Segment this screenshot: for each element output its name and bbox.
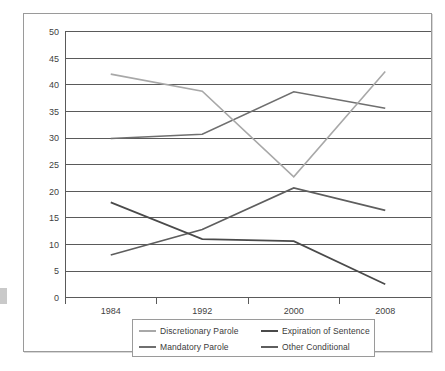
x-tick-2000: 2000 [284, 306, 304, 316]
y-tick-40: 40 [49, 80, 59, 90]
legend-label-other-conditional: Other Conditional [282, 342, 350, 352]
legend-swatch-other-conditional [261, 346, 278, 348]
legend-swatch-expiration-of-sentence [261, 330, 278, 332]
x-tick-2008: 2008 [375, 306, 395, 316]
y-tick-25: 25 [49, 160, 59, 170]
y-tick-35: 35 [49, 107, 59, 117]
chart-frame: 50 45 40 35 30 25 20 15 10 5 0 [23, 13, 432, 352]
y-tick-0: 0 [54, 293, 59, 303]
legend-label-expiration-of-sentence: Expiration of Sentence [282, 326, 370, 336]
scan-edge-artifact [0, 288, 7, 304]
legend-item-other-conditional: Other Conditional [255, 342, 376, 352]
gridlines [65, 32, 431, 271]
legend-item-expiration-of-sentence: Expiration of Sentence [255, 326, 376, 336]
y-tick-5: 5 [54, 266, 59, 276]
y-tick-45: 45 [49, 54, 59, 64]
chart-root: 50 45 40 35 30 25 20 15 10 5 0 [0, 0, 445, 371]
legend-label-discretionary-parole: Discretionary Parole [160, 326, 239, 336]
y-axis-tick-labels: 50 45 40 35 30 25 20 15 10 5 0 [49, 27, 59, 303]
x-tick-1984: 1984 [101, 306, 121, 316]
series-line-mandatory-parole [111, 92, 386, 139]
legend-label-mandatory-parole: Mandatory Parole [160, 342, 229, 352]
y-tick-15: 15 [49, 213, 59, 223]
series-line-other-conditional [111, 188, 386, 255]
chart-legend: Discretionary Parole Expiration of Sente… [132, 319, 375, 357]
line-chart-plot: 50 45 40 35 30 25 20 15 10 5 0 [24, 14, 431, 351]
y-tick-10: 10 [49, 240, 59, 250]
legend-swatch-mandatory-parole [139, 346, 156, 348]
series-line-discretionary-parole [111, 72, 386, 177]
x-axis-ticks [65, 298, 431, 304]
y-tick-50: 50 [49, 27, 59, 37]
legend-swatch-discretionary-parole [139, 330, 156, 332]
y-tick-30: 30 [49, 133, 59, 143]
x-tick-1992: 1992 [192, 306, 212, 316]
legend-item-mandatory-parole: Mandatory Parole [133, 342, 255, 352]
y-tick-20: 20 [49, 187, 59, 197]
x-axis-tick-labels: 1984 1992 2000 2008 [101, 306, 396, 316]
legend-item-discretionary-parole: Discretionary Parole [133, 326, 255, 336]
